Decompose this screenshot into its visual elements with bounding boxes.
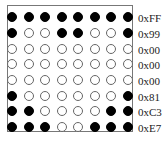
led-off-dot [90, 91, 100, 101]
led-off-dot [7, 44, 17, 54]
led-off-dot [106, 91, 116, 101]
led-off-dot [57, 59, 67, 69]
led-on-dot [57, 28, 67, 38]
row-hex-label: 0x00 [138, 44, 160, 56]
led-on-dot [7, 91, 17, 101]
led-off-dot [57, 106, 67, 116]
led-on-dot [7, 12, 17, 22]
led-off-dot [123, 44, 133, 54]
led-off-dot [40, 91, 50, 101]
led-off-dot [106, 28, 116, 38]
row-hex-label: 0x00 [138, 75, 160, 87]
led-on-dot [106, 106, 116, 116]
led-on-dot [24, 12, 34, 22]
led-on-dot [73, 12, 83, 22]
led-off-dot [73, 106, 83, 116]
led-on-dot [123, 91, 133, 101]
led-off-dot [106, 59, 116, 69]
led-off-dot [24, 59, 34, 69]
led-off-dot [106, 44, 116, 54]
row-hex-label: 0x00 [138, 59, 160, 71]
led-off-dot [7, 75, 17, 85]
led-on-dot [24, 122, 34, 132]
led-off-dot [90, 75, 100, 85]
led-off-dot [40, 59, 50, 69]
led-on-dot [106, 122, 116, 132]
led-on-dot [40, 122, 50, 132]
led-off-dot [90, 106, 100, 116]
led-off-dot [90, 59, 100, 69]
row-hex-label: 0x81 [138, 91, 160, 103]
led-off-dot [90, 28, 100, 38]
led-on-dot [90, 12, 100, 22]
led-on-dot [40, 12, 50, 22]
led-off-dot [123, 59, 133, 69]
led-off-dot [73, 122, 83, 132]
led-on-dot [90, 122, 100, 132]
led-on-dot [7, 122, 17, 132]
led-off-dot [73, 91, 83, 101]
led-off-dot [73, 44, 83, 54]
led-off-dot [57, 91, 67, 101]
row-hex-label: 0xFF [138, 12, 161, 24]
led-off-dot [73, 75, 83, 85]
led-on-dot [7, 28, 17, 38]
led-off-dot [24, 75, 34, 85]
led-off-dot [90, 44, 100, 54]
led-off-dot [7, 59, 17, 69]
led-on-dot [57, 12, 67, 22]
led-off-dot [24, 44, 34, 54]
led-off-dot [57, 122, 67, 132]
led-off-dot [24, 91, 34, 101]
led-on-dot [123, 12, 133, 22]
led-off-dot [57, 75, 67, 85]
led-on-dot [24, 106, 34, 116]
led-on-dot [73, 28, 83, 38]
led-off-dot [73, 59, 83, 69]
row-hex-label: 0xC3 [138, 106, 162, 118]
led-off-dot [40, 44, 50, 54]
led-on-dot [123, 28, 133, 38]
led-off-dot [57, 44, 67, 54]
led-off-dot [40, 28, 50, 38]
led-off-dot [40, 106, 50, 116]
led-off-dot [24, 28, 34, 38]
led-on-dot [123, 106, 133, 116]
led-on-dot [7, 106, 17, 116]
row-hex-label: 0x99 [138, 28, 160, 40]
led-off-dot [40, 75, 50, 85]
led-on-dot [106, 12, 116, 22]
row-hex-label: 0xE7 [138, 122, 161, 134]
led-off-dot [123, 75, 133, 85]
led-on-dot [123, 122, 133, 132]
led-off-dot [106, 75, 116, 85]
